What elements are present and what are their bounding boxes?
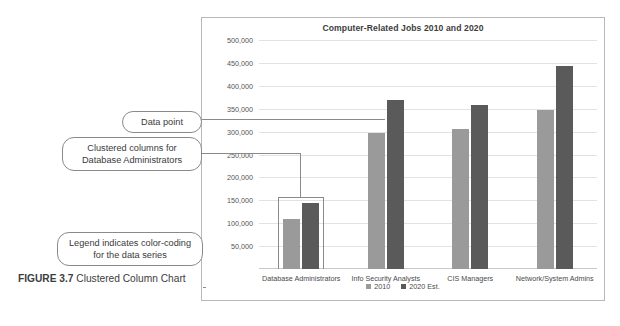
y-axis-tick-label: 100,000 <box>227 219 253 228</box>
y-axis-tick-label: 250,000 <box>227 150 253 159</box>
bracket-clustered-columns <box>278 197 324 269</box>
leader-line-clustered-horizontal <box>202 153 300 154</box>
figure-container: Computer-Related Jobs 2010 and 2020 50,0… <box>0 0 620 326</box>
bar-group: Network/System Admins <box>513 40 598 269</box>
y-axis-tick-label: 500,000 <box>227 36 253 45</box>
legend-label: 2010 <box>374 282 390 291</box>
figure-caption: FIGURE 3.7 Clustered Column Chart <box>18 272 198 286</box>
chart-frame: Computer-Related Jobs 2010 and 2020 50,0… <box>201 17 605 301</box>
callout-clustered-columns: Clustered columns for Database Administr… <box>62 137 202 171</box>
legend-swatch-icon <box>401 284 406 289</box>
bar-group: CIS Managers <box>428 40 513 269</box>
y-axis-tick-label: 150,000 <box>227 196 253 205</box>
bar-series-2010 <box>452 129 469 269</box>
leader-line-legend <box>203 287 206 288</box>
y-axis-tick-label: 200,000 <box>227 173 253 182</box>
bar-series-2020 <box>387 100 404 269</box>
leader-line-data-point <box>202 119 385 120</box>
bar-series-2010 <box>537 110 554 269</box>
legend-label: 2020 Est. <box>409 282 439 291</box>
callout-legend: Legend indicates color-coding for the da… <box>57 232 203 266</box>
figure-caption-text: Clustered Column Chart <box>76 273 185 284</box>
y-axis-tick-label: 400,000 <box>227 81 253 90</box>
leader-line-clustered-vertical <box>300 153 301 197</box>
chart-title: Computer-Related Jobs 2010 and 2020 <box>202 23 604 33</box>
bar-series-2020 <box>556 66 573 269</box>
y-axis-tick-label: 300,000 <box>227 127 253 136</box>
y-axis-tick-label: 450,000 <box>227 58 253 67</box>
legend-item: 2010 <box>366 282 390 291</box>
legend-swatch-icon <box>366 284 371 289</box>
bar-group: Info Security Analysts <box>344 40 429 269</box>
y-axis-tick-label: 350,000 <box>227 104 253 113</box>
bar-series-2020 <box>471 105 488 269</box>
legend-item: 2020 Est. <box>401 282 439 291</box>
y-axis-tick-label: 50,000 <box>231 242 253 251</box>
callout-data-point: Data point <box>122 111 202 133</box>
chart-legend: 20102020 Est. <box>202 282 604 291</box>
figure-number: FIGURE 3.7 <box>18 273 73 284</box>
bar-series-2010 <box>368 133 385 269</box>
